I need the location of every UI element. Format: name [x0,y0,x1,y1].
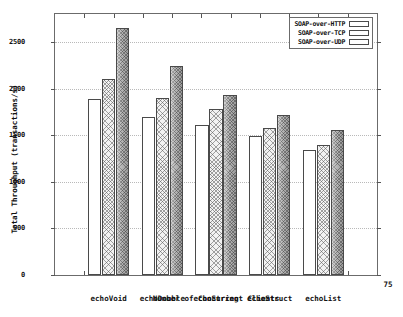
x-tick-mark [143,14,144,18]
bar-echostring-soap-over-udp [223,95,237,275]
bar-echostring-soap-over-http [195,125,209,275]
x-tick-mark [201,14,202,18]
y-tick-mark [51,182,55,183]
bar-echostruct-soap-over-tcp [263,128,277,275]
legend-label: SOAP-over-HTTP [294,20,345,28]
x-tick-label-echostring: echoString [193,294,238,303]
x-tick-label-echostruct: echoStruct [247,294,292,303]
y-tick-mark [377,275,381,276]
y-tick-mark [377,89,381,90]
x-tick-mark [260,14,261,18]
bar-echodouble-soap-over-http [142,117,156,275]
bar-echostruct-soap-over-http [249,136,263,275]
x-tick-label-echodouble: echoDouble [140,294,185,303]
y-axis-title: Total Throughput (transactions/s) [10,84,19,233]
y-tick-mark [377,42,381,43]
bar-echolist-soap-over-udp [331,130,345,275]
bar-echovoid-soap-over-udp [116,28,130,275]
x-tick-label-echolist: echoList [305,294,341,303]
legend-item-soap-over-tcp: SOAP-over-TCP [294,29,369,37]
x-tick-mark [172,14,173,18]
legend-item-soap-over-udp: SOAP-over-UDP [294,38,369,46]
y-tick-label: 1000 [9,178,25,186]
x-tick-label-echovoid: echoVoid [91,294,127,303]
bar-echovoid-soap-over-tcp [102,79,116,275]
x-tick-mark [84,14,85,18]
x-tick-mark [231,14,232,18]
chart-legend: SOAP-over-HTTP SOAP-over-TCP SOAP-over-U… [289,17,373,49]
y-tick-mark [51,42,55,43]
y-tick-label: 0 [21,271,25,279]
y-tick-label: 500 [13,224,25,232]
y-tick-mark [377,135,381,136]
bar-echodouble-soap-over-tcp [156,98,170,275]
legend-label: SOAP-over-UDP [298,38,345,46]
y-tick-mark [377,182,381,183]
y-tick-label: 1500 [9,131,25,139]
y-tick-mark [377,228,381,229]
bar-echostruct-soap-over-udp [277,115,291,275]
y-tick-mark [51,89,55,90]
x-axis-corner-note: 75 [383,280,392,289]
legend-label: SOAP-over-TCP [298,29,345,37]
bar-echolist-soap-over-tcp [317,145,331,275]
y-tick-mark [51,275,55,276]
plot-area: 05001000150020002500 echoVoidechoDoublee… [54,13,378,276]
legend-swatch-series-1 [349,30,369,36]
legend-item-soap-over-http: SOAP-over-HTTP [294,20,369,28]
x-tick-mark [114,14,115,18]
y-tick-label: 2500 [9,38,25,46]
y-tick-label: 2000 [9,85,25,93]
bottom-caption-strip [0,309,403,317]
legend-swatch-series-2 [349,39,369,45]
y-tick-mark [51,135,55,136]
bar-chart: Total Throughput (transactions/s) Number… [0,0,403,317]
bar-echostring-soap-over-tcp [209,109,223,275]
legend-swatch-series-0 [349,21,369,27]
bar-echodouble-soap-over-udp [170,66,184,275]
y-tick-mark [51,228,55,229]
x-tick-mark [84,271,85,275]
bar-echolist-soap-over-http [303,150,317,275]
bar-echovoid-soap-over-http [88,99,102,275]
x-tick-mark [348,271,349,275]
